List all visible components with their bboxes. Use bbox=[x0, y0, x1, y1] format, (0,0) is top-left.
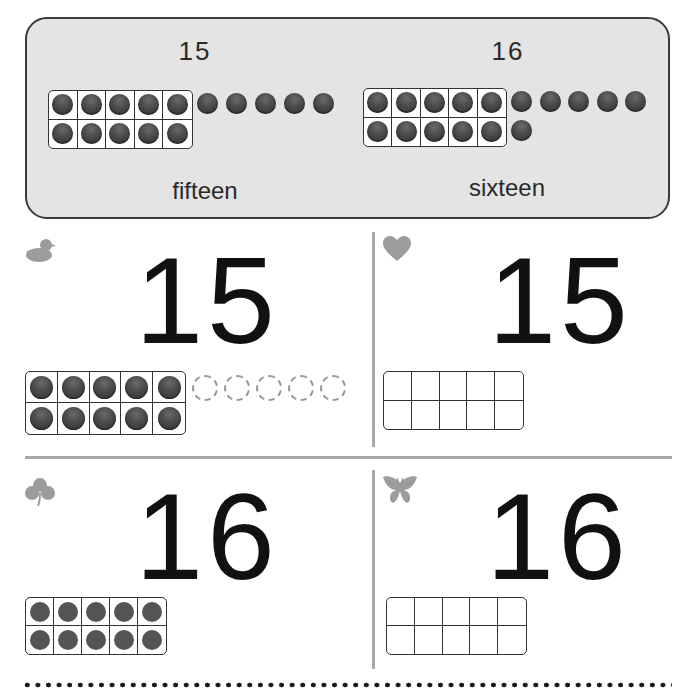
counter bbox=[255, 93, 276, 114]
counter bbox=[81, 94, 102, 115]
counter bbox=[396, 92, 417, 113]
clover-icon bbox=[25, 477, 55, 507]
counter bbox=[138, 94, 159, 115]
ten-frame-cell bbox=[138, 598, 166, 626]
card-numeral: 15 bbox=[488, 240, 632, 362]
card-ten-frame[interactable] bbox=[383, 371, 524, 430]
ten-frame-cell[interactable] bbox=[498, 626, 526, 654]
butterfly-icon bbox=[382, 475, 418, 505]
ten-frame-cell bbox=[58, 403, 90, 434]
ten-frame-cell bbox=[110, 598, 138, 626]
counter bbox=[30, 630, 50, 650]
ghost-counter bbox=[256, 375, 282, 401]
ten-frame-cell[interactable] bbox=[443, 626, 471, 654]
ten-frame-cell[interactable] bbox=[384, 401, 412, 430]
ghost-counter bbox=[192, 375, 218, 401]
counter bbox=[86, 602, 106, 622]
dotted-separator bbox=[22, 682, 672, 688]
counter bbox=[58, 602, 78, 622]
counter bbox=[30, 376, 53, 399]
ten-frame-cell[interactable] bbox=[467, 401, 495, 430]
ten-frame-cell bbox=[153, 403, 185, 434]
ten-frame-cell[interactable] bbox=[495, 401, 523, 430]
counter bbox=[93, 376, 116, 399]
ten-frame-cell[interactable] bbox=[440, 372, 468, 401]
horizontal-divider bbox=[25, 456, 672, 459]
counter bbox=[125, 376, 148, 399]
card-ten-frame bbox=[25, 371, 186, 435]
counter bbox=[30, 602, 50, 622]
ten-frame-cell bbox=[106, 120, 135, 149]
counter bbox=[158, 376, 181, 399]
ten-frame-cell[interactable] bbox=[387, 598, 415, 626]
ten-frame-cell bbox=[121, 372, 153, 403]
counter bbox=[597, 91, 618, 112]
ten-frame-cell bbox=[78, 91, 107, 120]
ten-frame-cell bbox=[138, 626, 166, 654]
ten-frame-cell bbox=[392, 89, 420, 118]
ten-frame-cell bbox=[364, 118, 392, 147]
ten-frame-cell bbox=[54, 598, 82, 626]
ghost-counter bbox=[224, 375, 250, 401]
ten-frame-cell bbox=[58, 372, 90, 403]
counter bbox=[158, 407, 181, 430]
ten-frame-cell bbox=[106, 91, 135, 120]
ten-frame-cell bbox=[364, 89, 392, 118]
ten-frame-cell[interactable] bbox=[415, 598, 443, 626]
banner-ten-frame-15 bbox=[48, 90, 193, 149]
counter bbox=[30, 407, 53, 430]
ten-frame-cell[interactable] bbox=[384, 372, 412, 401]
counter bbox=[167, 123, 188, 144]
ten-frame-cell[interactable] bbox=[387, 626, 415, 654]
ten-frame-cell bbox=[478, 118, 506, 147]
card-numeral: 16 bbox=[486, 476, 630, 598]
counter bbox=[58, 630, 78, 650]
ten-frame-cell bbox=[421, 89, 449, 118]
counter bbox=[284, 93, 305, 114]
banner-word-sixteen: sixteen bbox=[469, 174, 545, 202]
vertical-divider-bottom bbox=[372, 470, 375, 669]
ten-frame-cell[interactable] bbox=[470, 626, 498, 654]
ten-frame-cell bbox=[78, 120, 107, 149]
ten-frame-cell bbox=[163, 91, 192, 120]
banner-numeral-15: 15 bbox=[179, 36, 212, 67]
ten-frame-cell[interactable] bbox=[440, 401, 468, 430]
ten-frame-cell[interactable] bbox=[415, 626, 443, 654]
ghost-counters bbox=[192, 375, 352, 405]
ten-frame-cell bbox=[153, 372, 185, 403]
counter bbox=[625, 91, 646, 112]
ten-frame-cell bbox=[421, 118, 449, 147]
ten-frame-cell[interactable] bbox=[412, 372, 440, 401]
counter bbox=[367, 121, 388, 142]
counter bbox=[52, 123, 73, 144]
counter bbox=[481, 121, 502, 142]
counter bbox=[114, 630, 134, 650]
counter bbox=[142, 630, 162, 650]
counter bbox=[109, 94, 130, 115]
ten-frame-cell bbox=[90, 403, 122, 434]
ten-frame-cell[interactable] bbox=[412, 401, 440, 430]
counter bbox=[142, 602, 162, 622]
ten-frame-cell[interactable] bbox=[495, 372, 523, 401]
card-ten-frame[interactable] bbox=[386, 597, 527, 655]
ten-frame-cell bbox=[449, 118, 477, 147]
ten-frame-cell[interactable] bbox=[470, 598, 498, 626]
counter bbox=[52, 94, 73, 115]
ten-frame-cell bbox=[49, 120, 78, 149]
counter bbox=[81, 123, 102, 144]
banner-extra-counters-16 bbox=[511, 91, 661, 151]
ten-frame-cell bbox=[54, 626, 82, 654]
banner-ten-frame-16 bbox=[363, 88, 507, 147]
banner-numeral-16: 16 bbox=[492, 36, 525, 67]
counter bbox=[62, 407, 85, 430]
ten-frame-cell bbox=[478, 89, 506, 118]
ten-frame-cell[interactable] bbox=[498, 598, 526, 626]
ghost-counter bbox=[288, 375, 314, 401]
ten-frame-cell bbox=[449, 89, 477, 118]
ten-frame-cell bbox=[82, 626, 110, 654]
ten-frame-cell[interactable] bbox=[443, 598, 471, 626]
counter bbox=[62, 376, 85, 399]
counter bbox=[93, 407, 116, 430]
ten-frame-cell[interactable] bbox=[467, 372, 495, 401]
counter bbox=[481, 92, 502, 113]
